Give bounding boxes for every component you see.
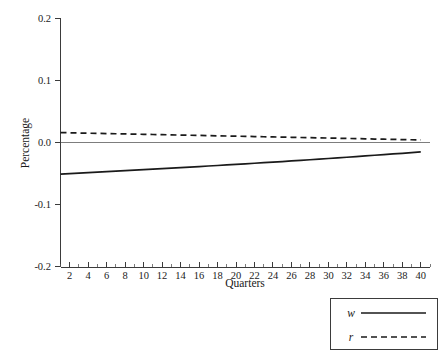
x-tick-label-16: 16 [194, 270, 205, 281]
y-tick-label-1: 0.1 [38, 75, 51, 86]
x-axis-minor-ticks [61, 264, 431, 267]
x-tick-label-36: 36 [379, 270, 390, 281]
y-tick-label-0: 0.2 [38, 13, 51, 24]
x-tick-label-2: 2 [67, 270, 72, 281]
x-tick-label-38: 38 [397, 270, 408, 281]
x-tick-label-14: 14 [175, 270, 186, 281]
x-axis-title: Quarters [225, 277, 265, 289]
x-tick-label-6: 6 [104, 270, 109, 281]
x-tick-label-40: 40 [416, 270, 427, 281]
x-tick-label-12: 12 [157, 270, 168, 281]
x-tick-label-28: 28 [305, 270, 316, 281]
y-tick-label-2: 0.0 [38, 137, 51, 148]
x-tick-label-24: 24 [268, 270, 279, 281]
x-tick-label-18: 18 [212, 270, 223, 281]
chart-figure: 0.2 0.1 0.0 -0.1 -0.2 Percentage 2468101… [0, 0, 444, 354]
x-tick-label-8: 8 [123, 270, 128, 281]
legend-label-r: r [349, 331, 354, 343]
x-tick-label-32: 32 [342, 270, 353, 281]
x-tick-label-26: 26 [286, 270, 297, 281]
x-tick-label-10: 10 [138, 270, 149, 281]
y-tick-label-3: -0.1 [34, 199, 51, 210]
y-axis-title: Percentage [19, 118, 32, 168]
legend-label-w: w [347, 307, 355, 319]
y-tick-label-4: -0.2 [34, 261, 51, 272]
x-tick-label-4: 4 [86, 270, 92, 281]
legend[interactable]: w r [331, 299, 438, 350]
x-tick-label-34: 34 [360, 270, 371, 281]
line-chart-svg: 0.2 0.1 0.0 -0.1 -0.2 Percentage 2468101… [0, 0, 444, 354]
x-tick-label-30: 30 [323, 270, 334, 281]
